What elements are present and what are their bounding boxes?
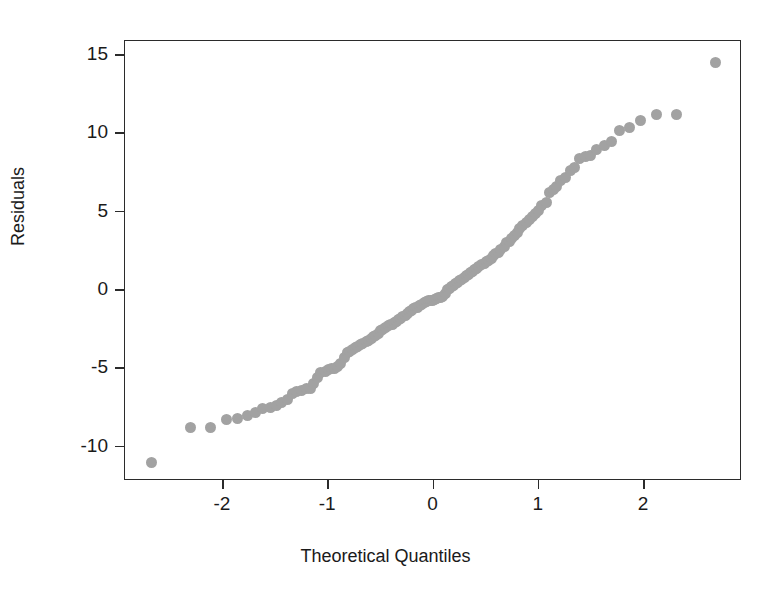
x-tick-label: 2 <box>603 494 683 513</box>
x-tick-label: -1 <box>287 494 367 513</box>
y-tick-mark <box>115 289 124 291</box>
y-tick-mark <box>115 132 124 134</box>
x-tick-mark <box>222 480 224 489</box>
data-point <box>606 136 617 147</box>
data-point <box>624 122 635 133</box>
data-point <box>710 57 721 68</box>
scatter-points-layer <box>125 41 740 479</box>
x-tick-label: 0 <box>393 494 473 513</box>
x-tick-label: -2 <box>182 494 262 513</box>
y-tick-mark <box>115 446 124 448</box>
data-point <box>635 115 646 126</box>
x-tick-mark <box>643 480 645 489</box>
y-tick-label: 15 <box>0 44 108 63</box>
data-point <box>205 422 216 433</box>
y-tick-label: -5 <box>0 357 108 376</box>
y-tick-mark <box>115 211 124 213</box>
plot-frame <box>124 40 741 480</box>
y-tick-mark <box>115 54 124 56</box>
x-tick-mark <box>327 480 329 489</box>
x-tick-mark <box>538 480 540 489</box>
y-tick-mark <box>115 367 124 369</box>
qq-plot-figure: -10-5051015-2-1012 Theoretical Quantiles… <box>0 0 771 594</box>
data-point <box>651 109 662 120</box>
y-axis-label: Residuals <box>8 97 29 317</box>
x-tick-mark <box>433 480 435 489</box>
data-point <box>671 109 682 120</box>
data-point <box>185 422 196 433</box>
data-point <box>541 197 552 208</box>
data-point <box>221 414 232 425</box>
data-point <box>569 162 580 173</box>
x-tick-label: 1 <box>498 494 578 513</box>
x-axis-label: Theoretical Quantiles <box>0 546 771 567</box>
data-point <box>146 457 157 468</box>
y-tick-label: -10 <box>0 436 108 455</box>
